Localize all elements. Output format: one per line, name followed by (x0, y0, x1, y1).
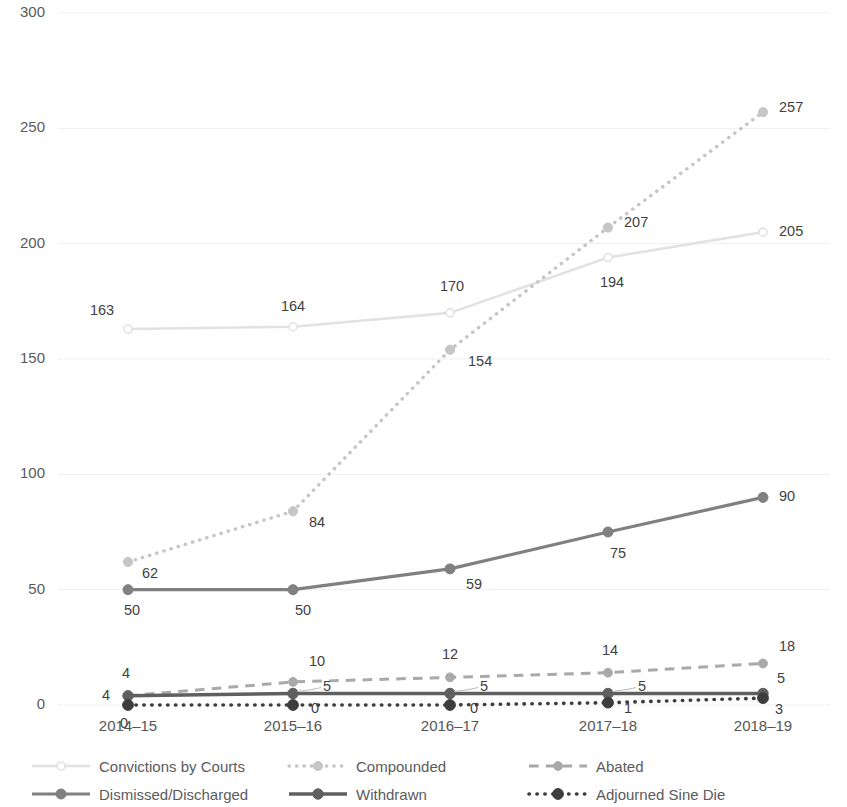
y-tick-label-200: 200 (20, 234, 45, 251)
line-chart: 050100150200250300 163164170194205628415… (0, 0, 847, 807)
y-tick-label-250: 250 (20, 118, 45, 135)
data-label-s4-p3: 5 (638, 678, 646, 694)
data-point-marker (759, 228, 767, 236)
legend-label-withdrawn: Withdrawn (356, 786, 427, 803)
legend-item-compounded[interactable]: Compounded (287, 758, 527, 775)
data-point-marker (123, 585, 133, 595)
data-point-marker (445, 688, 455, 698)
legend-label-adjourned-sine-die: Adjourned Sine Die (596, 786, 725, 803)
data-label-s0-p4: 205 (779, 223, 803, 239)
data-point-marker (758, 693, 769, 704)
data-point-marker (446, 309, 454, 317)
data-point-marker (603, 223, 612, 232)
legend-swatch-convictions-by-courts (30, 759, 92, 773)
y-tick-label-0: 0 (37, 695, 45, 712)
legend-item-convictions-by-courts[interactable]: Convictions by Courts (30, 758, 287, 775)
series-markers-group (123, 108, 769, 711)
legend-swatch-adjourned-sine-die (527, 787, 589, 801)
series-line-3 (128, 497, 763, 589)
data-label-s3-p3: 75 (610, 545, 626, 561)
series-line-1 (128, 112, 763, 562)
data-label-s1-p0: 62 (142, 565, 158, 581)
data-label-s4-p0: 4 (102, 687, 110, 703)
data-label-s3-p4: 90 (779, 488, 795, 504)
legend-swatch-dismissed-discharged (30, 787, 92, 801)
data-label-s2-p1: 10 (309, 653, 325, 669)
legend-swatch-withdrawn (287, 787, 349, 801)
data-label-s0-p2: 170 (440, 278, 464, 294)
label-leader-line (612, 687, 636, 691)
label-leader-lines (297, 687, 636, 691)
data-label-s2-p3: 14 (602, 642, 618, 658)
data-point-marker (604, 254, 612, 262)
data-label-s5-p2: 0 (470, 700, 478, 716)
legend-item-adjourned-sine-die[interactable]: Adjourned Sine Die (527, 786, 767, 803)
data-point-marker (289, 323, 297, 331)
y-axis-tick-labels: 050100150200250300 (20, 3, 45, 712)
chart-legend: Convictions by Courts Compounded Abated … (0, 748, 847, 807)
data-point-marker (289, 678, 298, 687)
data-point-marker (758, 108, 767, 117)
data-label-s1-p3: 207 (624, 214, 648, 230)
data-point-marker (604, 668, 613, 677)
data-point-marker (446, 673, 455, 682)
data-point-marker (123, 557, 132, 566)
legend-label-convictions-by-courts: Convictions by Courts (99, 758, 245, 775)
data-label-s3-p1: 50 (295, 602, 311, 618)
legend-swatch-abated (527, 759, 589, 773)
y-tick-label-300: 300 (20, 3, 45, 20)
data-label-s0-p1: 164 (281, 298, 305, 314)
data-label-s1-p4: 257 (779, 99, 803, 115)
legend-row-2: Dismissed/Discharged Withdrawn Adjourned… (0, 780, 847, 807)
x-axis-tick-labels: 2014–152015–162016–172017–182018–19 (99, 717, 792, 734)
label-leader-line (454, 687, 478, 691)
gridlines-group (58, 13, 830, 705)
data-point-marker (758, 492, 768, 502)
data-point-marker (445, 345, 454, 354)
data-point-marker (288, 585, 298, 595)
y-tick-label-50: 50 (28, 580, 45, 597)
x-tick-label-2: 2016–17 (421, 717, 479, 734)
data-label-s3-p2: 59 (466, 576, 482, 592)
y-tick-label-150: 150 (20, 349, 45, 366)
y-tick-label-100: 100 (20, 464, 45, 481)
legend-label-dismissed-discharged: Dismissed/Discharged (99, 786, 248, 803)
data-point-marker (445, 564, 455, 574)
data-label-s2-p4: 18 (779, 638, 795, 654)
x-tick-label-0: 2014–15 (99, 717, 157, 734)
data-point-marker (603, 697, 614, 708)
data-label-s2-p2: 12 (442, 646, 458, 662)
data-point-labels: 1631641701942056284154207257410121418505… (90, 99, 803, 731)
data-label-s0-p0: 163 (90, 302, 114, 318)
data-point-marker (124, 325, 132, 333)
data-label-s5-p3: 1 (624, 700, 632, 716)
data-point-marker (288, 507, 297, 516)
data-point-marker (445, 700, 456, 711)
legend-label-compounded: Compounded (356, 758, 446, 775)
data-label-s3-p0: 50 (124, 602, 140, 618)
legend-item-abated[interactable]: Abated (527, 758, 767, 775)
data-label-s4-p4: 5 (777, 670, 785, 686)
data-label-s4-p1: 5 (323, 678, 331, 694)
x-tick-label-4: 2018–19 (734, 717, 792, 734)
x-tick-label-3: 2017–18 (579, 717, 637, 734)
data-label-s1-p2: 154 (468, 353, 492, 369)
data-point-marker (288, 700, 299, 711)
legend-item-withdrawn[interactable]: Withdrawn (287, 786, 527, 803)
data-label-s5-p4: 3 (775, 701, 783, 717)
data-point-marker (759, 659, 768, 668)
data-label-s1-p1: 84 (309, 514, 325, 530)
legend-item-dismissed-discharged[interactable]: Dismissed/Discharged (30, 786, 287, 803)
data-label-s2-p0: 4 (122, 665, 130, 681)
data-label-s4-p2: 5 (480, 678, 488, 694)
data-point-marker (288, 688, 298, 698)
data-point-marker (123, 700, 134, 711)
legend-label-abated: Abated (596, 758, 644, 775)
data-point-marker (603, 527, 613, 537)
x-tick-label-1: 2015–16 (264, 717, 322, 734)
chart-plot-area: 050100150200250300 163164170194205628415… (0, 0, 847, 807)
series-lines-group (128, 112, 763, 705)
legend-row-1: Convictions by Courts Compounded Abated (0, 752, 847, 780)
data-label-s5-p1: 0 (311, 700, 319, 716)
data-label-s0-p3: 194 (600, 274, 624, 290)
